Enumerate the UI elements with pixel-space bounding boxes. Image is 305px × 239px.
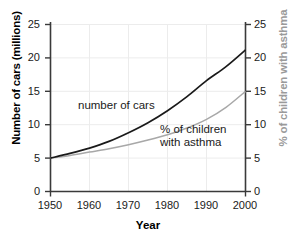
x-tick-1990: 1990 [186, 199, 226, 211]
y-axis-right-title: % of children with asthma [277, 0, 289, 158]
x-tick-2000: 2000 [225, 199, 265, 211]
series-annotation-cars: number of cars [78, 99, 155, 112]
x-axis-title: Year [50, 219, 246, 231]
series-annotation-asthma: % of children with asthma [160, 123, 226, 149]
series-annotation-asthma-line1: % of children [160, 123, 226, 136]
x-tick-1980: 1980 [147, 199, 187, 211]
x-tick-1960: 1960 [69, 199, 109, 211]
y-axis-left-ticks [45, 25, 50, 192]
y-right-tick-0: 0 [254, 185, 280, 197]
series-annotation-asthma-line2: with asthma [160, 136, 226, 149]
y-left-tick-0: 0 [14, 185, 40, 197]
x-tick-1970: 1970 [108, 199, 148, 211]
y-axis-left-title: Number of cars (millions) [10, 0, 22, 158]
chart-container: 25 20 15 10 5 0 25 20 15 10 5 0 1950 196… [0, 0, 305, 239]
x-tick-1950: 1950 [30, 199, 70, 211]
y-axis-right-ticks [246, 25, 251, 192]
